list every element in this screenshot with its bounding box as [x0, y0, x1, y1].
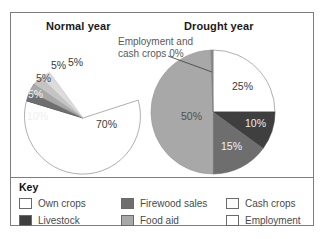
key-item-food-aid: Food aid: [121, 213, 207, 228]
key-item-firewood-sales: Firewood sales: [121, 196, 207, 211]
slice-label-drought-own-crops: 25%: [232, 80, 253, 92]
callout-line-1: Employment and: [118, 36, 193, 48]
slice-label-normal-cash-crops: 5%: [51, 59, 66, 71]
callout-employment-cash-crops: Employment and cash crops 0%: [118, 36, 193, 60]
pie-chart-drought-year: [145, 42, 285, 182]
key-label-food-aid: Food aid: [140, 215, 179, 226]
key-swatch-food-aid: [121, 215, 134, 226]
slice-label-normal-firewood: 5%: [28, 88, 43, 100]
callout-line-2: cash crops 0%: [118, 48, 193, 60]
slice-label-normal-livestock: 10%: [27, 110, 48, 122]
key-legend: Key Own crops Livestock Firewood sales F…: [11, 177, 313, 225]
key-swatch-livestock: [19, 215, 32, 226]
key-item-employment: Employment: [226, 213, 301, 228]
key-swatch-cash-crops: [226, 198, 239, 209]
chart-title-normal-year: Normal year: [46, 20, 111, 32]
chart-title-drought-year: Drought year: [184, 20, 254, 32]
key-title: Key: [19, 181, 38, 193]
slice-label-drought-food-aid: 50%: [181, 110, 202, 122]
slice-label-normal-employment: 5%: [68, 56, 83, 68]
pie-chart-figure: Normal year Drought year 70% 10% 5% 5% 5…: [0, 0, 326, 239]
key-swatch-firewood-sales: [121, 198, 134, 209]
slice-label-normal-food-aid: 5%: [36, 72, 51, 84]
key-item-livestock: Livestock: [19, 213, 86, 228]
key-column-1: Own crops Livestock: [19, 196, 86, 230]
key-item-cash-crops: Cash crops: [226, 196, 301, 211]
key-label-employment: Employment: [245, 215, 301, 226]
slice-label-drought-firewood: 15%: [221, 140, 242, 152]
key-swatch-own-crops: [19, 198, 32, 209]
key-label-cash-crops: Cash crops: [245, 198, 296, 209]
key-label-livestock: Livestock: [38, 215, 80, 226]
key-label-firewood-sales: Firewood sales: [140, 198, 207, 209]
key-item-own-crops: Own crops: [19, 196, 86, 211]
key-swatch-employment: [226, 215, 239, 226]
slice-label-normal-own-crops: 70%: [96, 118, 117, 130]
key-column-3: Cash crops Employment: [226, 196, 301, 230]
slice-label-drought-livestock: 10%: [245, 117, 266, 129]
key-column-2: Firewood sales Food aid: [121, 196, 207, 230]
key-label-own-crops: Own crops: [38, 198, 86, 209]
